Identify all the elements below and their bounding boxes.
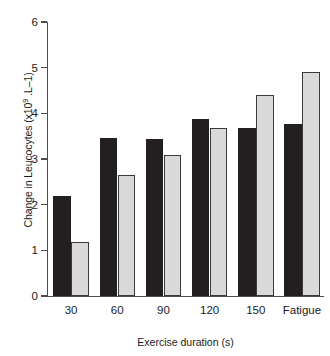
y-axis-title-exponent: 9 — [21, 99, 30, 103]
x-tick-label: 60 — [111, 304, 124, 316]
y-tick-label: 5 — [32, 62, 38, 74]
x-tick-label: Fatigue — [283, 304, 321, 316]
y-tick-label: 1 — [32, 244, 38, 256]
bar-dark-150 — [238, 128, 256, 296]
bar-dark-120 — [192, 119, 210, 296]
x-tick-label: 120 — [200, 304, 219, 316]
y-tick-mark — [41, 250, 47, 251]
y-tick-label: 2 — [32, 199, 38, 211]
y-tick-mark — [41, 113, 47, 114]
y-tick-label: 0 — [32, 290, 38, 302]
y-tick-label: 4 — [32, 107, 38, 119]
y-tick-mark — [41, 158, 47, 159]
x-tick-label: 30 — [65, 304, 78, 316]
bar-light-120 — [210, 128, 228, 296]
bar-dark-Fatigue — [284, 124, 302, 296]
x-axis-title: Exercise duration (s) — [47, 336, 324, 348]
plot-area: 0123456 306090120150Fatigue — [47, 22, 324, 296]
y-axis-line — [47, 22, 48, 296]
bar-light-30 — [71, 242, 89, 296]
bar-light-90 — [164, 155, 182, 296]
bar-light-60 — [118, 175, 136, 296]
y-tick-mark — [41, 204, 47, 205]
x-tick-label: 90 — [157, 304, 170, 316]
y-tick-mark — [41, 67, 47, 68]
y-axis-title-suffix: .L–1) — [22, 72, 34, 98]
bar-dark-60 — [100, 138, 118, 296]
y-tick-mark — [41, 21, 47, 22]
x-axis-line — [47, 296, 324, 297]
y-tick-label: 6 — [32, 16, 38, 28]
bar-chart: Change in Leucocytes (x109 .L–1) 0123456… — [0, 0, 330, 356]
bar-light-Fatigue — [302, 72, 320, 296]
x-tick-label: 150 — [246, 304, 265, 316]
bar-dark-90 — [146, 139, 164, 296]
y-tick-label: 3 — [32, 153, 38, 165]
bar-light-150 — [256, 95, 274, 296]
y-tick-mark — [41, 295, 47, 296]
bar-dark-30 — [53, 196, 71, 296]
